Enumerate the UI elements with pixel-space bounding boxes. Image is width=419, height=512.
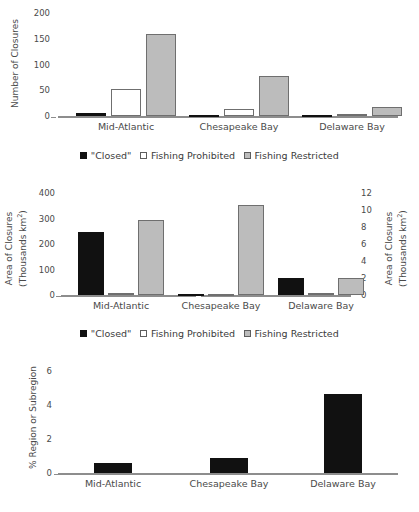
- chart2-ytick-200: 200: [25, 240, 55, 249]
- chart1-ytick-0-dash: [51, 117, 56, 118]
- chart2-plot-area: 400 300 200 100 0 12 10 8 6 4 2 0 Mid-At…: [61, 194, 351, 297]
- bar-chart3-mid-atlantic: [94, 463, 132, 473]
- bar-chart2-mid-atlantic-closed: [78, 232, 104, 295]
- chart1-xtick-mid-atlantic: Mid-Atlantic: [66, 121, 186, 132]
- chart2-ytick-400: 400: [25, 189, 55, 198]
- chart2-y-axis-title-left-line1: Area of Closures: [4, 194, 15, 304]
- bar-chart2-chesapeake-bay-prohibited: [208, 294, 234, 296]
- bar-chart1-mid-atlantic-restricted: [146, 34, 176, 116]
- legend-swatch-closed-icon: [80, 330, 87, 337]
- bar-chart1-mid-atlantic-closed: [76, 113, 106, 116]
- chart-area-of-closures: Area of Closures (Thousands km2) Area of…: [0, 180, 419, 355]
- bar-chart2-chesapeake-bay-restricted: [238, 205, 264, 295]
- legend-swatch-closed-icon: [80, 152, 87, 159]
- chart3-xtick-mid-atlantic: Mid-Atlantic: [53, 478, 173, 489]
- bar-chart2-mid-atlantic-restricted: [138, 220, 164, 295]
- chart2-y-axis-title-right-line2: (Thousands km2): [395, 194, 409, 304]
- chart2-legend-label-prohibited: Fishing Prohibited: [151, 328, 235, 339]
- chart3-ytick-0: 0: [36, 469, 52, 478]
- legend-swatch-prohibited-icon: [140, 330, 147, 337]
- chart1-legend-item-restricted: Fishing Restricted: [244, 150, 339, 161]
- bar-chart1-delaware-bay-restricted: [372, 107, 402, 116]
- chart3-xtick-delaware-bay: Delaware Bay: [283, 478, 403, 489]
- chart2-y2tick-0: 0: [361, 291, 385, 300]
- chart1-legend-label-prohibited: Fishing Prohibited: [151, 150, 235, 161]
- chart1-xtick-delaware-bay: Delaware Bay: [292, 121, 412, 132]
- chart3-ytick-2: 2: [36, 435, 52, 444]
- chart2-ytick-300: 300: [25, 215, 55, 224]
- chart1-legend: "Closed" Fishing Prohibited Fishing Rest…: [0, 150, 419, 161]
- chart2-legend-item-restricted: Fishing Restricted: [244, 328, 339, 339]
- chart1-ytick-0: 0: [20, 112, 50, 121]
- bar-chart1-delaware-bay-closed: [302, 115, 332, 117]
- bar-chart1-chesapeake-bay-closed: [189, 115, 219, 117]
- legend-swatch-prohibited-icon: [140, 152, 147, 159]
- chart2-y-axis-title-right-line1: Area of Closures: [384, 194, 395, 304]
- chart1-plot-area: 200 150 100 50 0 Mid-Atlantic Chesapeake…: [58, 14, 398, 117]
- chart2-ytick-0: 0: [25, 291, 55, 300]
- chart2-y2tick-2: 2: [361, 274, 385, 283]
- bar-chart1-chesapeake-bay-prohibited: [224, 109, 254, 116]
- bar-chart3-chesapeake-bay: [210, 458, 248, 474]
- chart2-legend-item-prohibited: Fishing Prohibited: [140, 328, 235, 339]
- chart1-ytick-150: 150: [20, 35, 50, 44]
- bar-chart1-delaware-bay-prohibited: [337, 114, 367, 116]
- chart2-y-axis-title-left-line2-end: ): [18, 210, 28, 214]
- chart2-y-axis-title-right: Area of Closures (Thousands km2): [384, 194, 409, 304]
- bar-chart2-delaware-bay-prohibited: [308, 293, 334, 295]
- chart1-legend-label-restricted: Fishing Restricted: [255, 150, 339, 161]
- chart2-y-axis-title-left-sup: 2: [16, 214, 24, 218]
- chart3-plot-area: 6 4 2 0 Mid-Atlantic Chesapeake Bay Dela…: [58, 372, 398, 475]
- chart2-y2tick-6: 6: [361, 240, 385, 249]
- chart-percent-region-or-subregion: % Region or Subregion 6 4 2 0 Mid-Atlant…: [0, 358, 419, 512]
- chart1-x-axis: [58, 116, 398, 118]
- chart2-legend-label-restricted: Fishing Restricted: [255, 328, 339, 339]
- chart2-y-axis-title-left-line2-text: (Thousands km: [18, 218, 28, 287]
- chart1-ytick-50: 50: [20, 86, 50, 95]
- bar-chart3-delaware-bay: [324, 394, 362, 473]
- bar-chart2-delaware-bay-closed: [278, 278, 304, 295]
- chart2-y2tick-10: 10: [361, 206, 385, 215]
- chart1-ytick-100: 100: [20, 61, 50, 70]
- chart1-xtick-chesapeake-bay: Chesapeake Bay: [179, 121, 299, 132]
- chart2-x-axis-left: [61, 295, 196, 297]
- chart2-y2tick-12: 12: [361, 189, 385, 198]
- chart3-ytick-6: 6: [36, 367, 52, 376]
- legend-swatch-restricted-icon: [244, 152, 251, 159]
- chart2-legend: "Closed" Fishing Prohibited Fishing Rest…: [0, 328, 419, 339]
- legend-swatch-restricted-icon: [244, 330, 251, 337]
- chart2-y-axis-title-right-sup: 2: [396, 214, 404, 218]
- chart1-y-axis-title: Number of Closures: [10, 9, 21, 119]
- bar-chart2-delaware-bay-restricted: [338, 278, 364, 295]
- chart2-ytick-100: 100: [25, 266, 55, 275]
- chart3-ytick-4: 4: [36, 401, 52, 410]
- chart1-legend-item-closed: "Closed": [80, 150, 131, 161]
- chart3-x-axis: [58, 473, 398, 475]
- chart3-xtick-chesapeake-bay: Chesapeake Bay: [169, 478, 289, 489]
- chart2-legend-label-closed: "Closed": [91, 328, 132, 339]
- chart1-legend-label-closed: "Closed": [91, 150, 132, 161]
- chart1-legend-item-prohibited: Fishing Prohibited: [140, 150, 235, 161]
- bar-chart2-chesapeake-bay-closed: [178, 294, 204, 296]
- chart2-xtick-delaware-bay: Delaware Bay: [261, 300, 381, 311]
- chart2-y2tick-8: 8: [361, 223, 385, 232]
- bar-chart1-mid-atlantic-prohibited: [111, 89, 141, 116]
- chart-number-of-closures: Number of Closures 200 150 100 50 0 Mid-…: [0, 0, 419, 170]
- bar-chart2-mid-atlantic-prohibited: [108, 293, 134, 295]
- chart2-y-axis-title-right-line2-text: (Thousands km: [398, 218, 408, 287]
- chart2-y2tick-4: 4: [361, 257, 385, 266]
- chart2-legend-item-closed: "Closed": [80, 328, 131, 339]
- chart1-ytick-200: 200: [20, 9, 50, 18]
- bar-chart1-chesapeake-bay-restricted: [259, 76, 289, 116]
- chart2-y-axis-title-right-line2-end: ): [398, 210, 408, 214]
